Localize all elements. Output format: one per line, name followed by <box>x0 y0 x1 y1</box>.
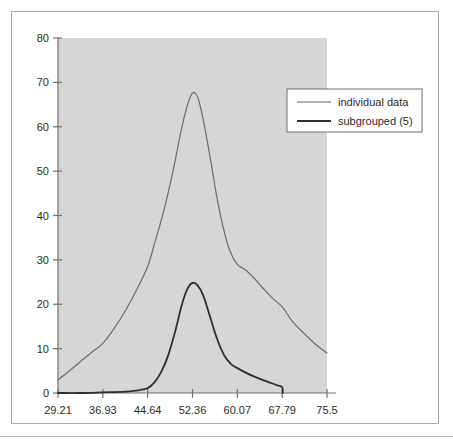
y-tick-label: 20 <box>37 298 49 310</box>
legend: individual data subgrouped (5) <box>287 89 422 132</box>
y-tick-label: 60 <box>37 121 49 133</box>
x-tick-label: 60.07 <box>224 404 252 416</box>
x-axis-tick-labels: 29.2136.9344.6452.3660.0767.7975.5 <box>44 404 337 416</box>
y-tick-label: 70 <box>37 76 49 88</box>
x-tick-label: 52.36 <box>179 404 207 416</box>
figure: 01020304050607080 29.2136.9344.6452.3660… <box>0 0 453 441</box>
y-tick-label: 0 <box>43 387 49 399</box>
y-tick-label: 50 <box>37 165 49 177</box>
y-tick-label: 30 <box>37 254 49 266</box>
x-tick-label: 44.64 <box>134 404 162 416</box>
y-axis-tick-labels: 01020304050607080 <box>37 32 49 399</box>
y-tick-label: 80 <box>37 32 49 44</box>
legend-label-individual-data: individual data <box>338 96 409 108</box>
y-tick-label: 10 <box>37 343 49 355</box>
line-chart: 01020304050607080 29.2136.9344.6452.3660… <box>11 11 439 424</box>
x-tick-label: 36.93 <box>89 404 117 416</box>
x-tick-label: 75.5 <box>316 404 337 416</box>
x-tick-label: 67.79 <box>268 404 296 416</box>
bottom-divider-rule <box>0 436 453 437</box>
y-tick-label: 40 <box>37 210 49 222</box>
legend-label-subgrouped: subgrouped (5) <box>338 115 413 127</box>
x-tick-label: 29.21 <box>44 404 72 416</box>
